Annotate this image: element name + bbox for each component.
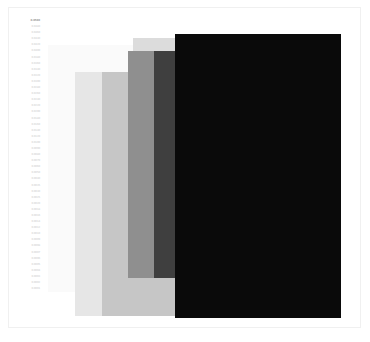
y-axis-tick-labels: 0.05000.04800.04600.04400.04200.04000.03…: [14, 18, 40, 292]
rect-7: [175, 34, 341, 318]
y-tick-label: 0.0001: [32, 286, 40, 292]
figure-canvas: 0.05000.04800.04600.04400.04200.04000.03…: [0, 0, 370, 342]
plot-area: [0, 0, 370, 342]
